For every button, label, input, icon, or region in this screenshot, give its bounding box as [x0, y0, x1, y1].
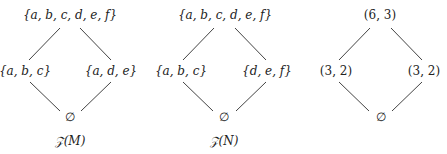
- diagram-2-bottom-node: ∅: [219, 110, 229, 124]
- diagram-3-left-node: (3, 2): [320, 64, 352, 78]
- diagram-1-left-node: {a, b, c}: [0, 64, 51, 78]
- edge-top-right: [235, 28, 266, 60]
- edge-right-bottom: [236, 82, 266, 111]
- diagram-2-caption: 𝒵(N): [210, 134, 239, 148]
- diagram-1-bottom-node: ∅: [65, 110, 75, 124]
- edge-left-bottom: [183, 82, 213, 111]
- edge-left-bottom: [339, 82, 369, 111]
- edge-right-bottom: [392, 82, 422, 111]
- edge-top-right: [80, 28, 111, 60]
- diagram-1-right-node: {a, d, e}: [85, 64, 137, 78]
- hasse-diagram-edges: [0, 0, 447, 154]
- edge-top-left: [183, 28, 214, 60]
- edge-right-bottom: [81, 82, 111, 111]
- edge-top-left: [29, 28, 60, 60]
- diagram-1-top-node: {a, b, c, d, e, f}: [23, 8, 117, 22]
- diagram-2-right-node: {d, e, f}: [242, 64, 292, 78]
- diagram-3-right-node: (3, 2): [408, 64, 440, 78]
- edge-top-right: [391, 28, 422, 60]
- diagram-1-caption: 𝒵(M): [55, 134, 86, 148]
- diagram-3-bottom-node: ∅: [376, 110, 386, 124]
- edge-left-bottom: [30, 82, 60, 111]
- diagram-2-left-node: {a, b, c}: [155, 64, 207, 78]
- diagram-3-top-node: (6, 3): [364, 8, 396, 22]
- edge-top-left: [339, 28, 370, 60]
- diagram-2-top-node: {a, b, c, d, e, f}: [178, 8, 272, 22]
